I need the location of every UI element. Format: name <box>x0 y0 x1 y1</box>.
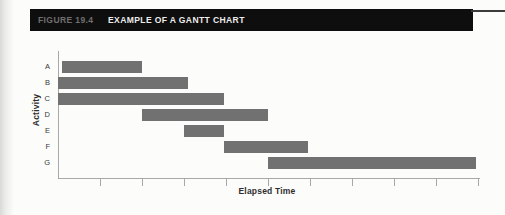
x-axis-tick <box>352 178 353 186</box>
activity-label: F <box>36 141 50 153</box>
x-axis-title: Elapsed Time <box>238 186 295 196</box>
x-axis-tick <box>184 178 185 186</box>
gantt-bar <box>58 77 188 89</box>
x-axis-tick <box>310 178 311 186</box>
activity-label: E <box>36 125 50 137</box>
activity-label: D <box>36 109 50 121</box>
activity-label: C <box>36 93 50 105</box>
x-axis-tick <box>142 178 143 186</box>
activity-label: B <box>36 77 50 89</box>
activity-label: G <box>36 157 50 169</box>
gantt-bar <box>184 125 224 137</box>
x-axis-tick <box>478 178 479 186</box>
x-axis-tick <box>226 178 227 186</box>
x-axis-tick <box>394 178 395 186</box>
y-axis-line <box>58 51 59 179</box>
gantt-bar <box>268 157 476 169</box>
gantt-bar <box>58 93 224 105</box>
x-axis-tick <box>268 178 269 186</box>
activity-label: A <box>36 61 50 73</box>
figure-page: { "header": { "figure_label": "FIGURE 19… <box>0 0 505 215</box>
x-axis-tick <box>100 178 101 186</box>
gantt-bar <box>62 61 142 73</box>
x-axis-tick <box>436 178 437 186</box>
gantt-bar <box>142 109 268 121</box>
gantt-chart: Activity Elapsed Time ABCDEFG <box>0 0 505 215</box>
gantt-bar <box>224 141 308 153</box>
